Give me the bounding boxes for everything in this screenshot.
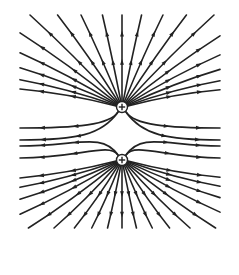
arrow-icon	[71, 78, 77, 82]
arrow-icon	[195, 138, 201, 142]
arrow-icon	[39, 190, 45, 194]
field-line	[54, 164, 118, 228]
field-line	[28, 164, 117, 228]
arrow-icon	[39, 201, 45, 205]
field-line	[20, 33, 117, 104]
arrow-icon	[38, 83, 44, 87]
arrow-icon	[133, 191, 137, 197]
arrow-icon	[71, 85, 77, 89]
arrow-icon	[120, 59, 124, 65]
arrow-icon	[165, 177, 171, 181]
arrow-icon	[39, 74, 45, 78]
field-lines	[20, 15, 220, 228]
field-line	[127, 36, 220, 104]
arrow-icon	[196, 126, 202, 130]
arrow-icon	[71, 178, 77, 182]
field-line	[123, 166, 136, 228]
arrow-icon	[143, 211, 147, 217]
arrow-icon	[165, 86, 171, 90]
arrow-icon	[105, 31, 109, 37]
field-line-diagram	[0, 0, 239, 275]
arrow-icon	[166, 91, 172, 95]
arrow-icon	[106, 191, 110, 197]
arrow-icon	[138, 59, 142, 65]
arrow-icon	[120, 31, 124, 37]
arrow-icon	[71, 185, 77, 189]
arrow-icon	[97, 211, 101, 217]
field-arrows	[38, 31, 203, 218]
field-line	[20, 150, 118, 158]
arrow-icon	[166, 172, 172, 176]
arrow-icon	[39, 62, 45, 66]
field-line	[108, 166, 121, 228]
field-line	[126, 164, 190, 228]
arrow-icon	[135, 31, 139, 37]
arrow-icon	[131, 211, 135, 217]
arrow-icon	[196, 188, 202, 192]
field-line	[126, 142, 220, 155]
arrow-icon	[70, 91, 76, 95]
arrow-icon	[196, 180, 202, 184]
arrow-icon	[165, 79, 171, 83]
arrow-icon	[89, 31, 93, 37]
arrow-icon	[40, 138, 46, 142]
arrow-icon	[196, 63, 202, 67]
positive-charge-icon	[117, 155, 128, 166]
arrow-icon	[39, 143, 45, 147]
field-line	[30, 15, 118, 103]
arrow-icon	[120, 191, 124, 197]
arrow-icon	[196, 84, 202, 88]
arrow-icon	[151, 31, 155, 37]
arrow-icon	[39, 126, 45, 130]
arrow-icon	[196, 75, 202, 79]
field-line	[126, 15, 214, 103]
field-line	[20, 142, 118, 155]
arrow-icon	[165, 184, 171, 188]
arrow-icon	[38, 181, 44, 185]
arrow-icon	[70, 172, 76, 176]
field-line	[126, 150, 220, 158]
arrow-icon	[161, 133, 167, 137]
charges	[117, 102, 128, 166]
arrow-icon	[109, 211, 113, 217]
arrow-icon	[102, 59, 106, 65]
arrow-icon	[196, 200, 202, 204]
positive-charge-icon	[117, 102, 128, 113]
arrow-icon	[120, 212, 124, 218]
field-line	[124, 15, 163, 102]
field-line	[81, 15, 120, 102]
field-line	[127, 164, 216, 228]
